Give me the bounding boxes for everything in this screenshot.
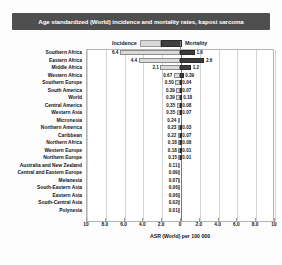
page-title: Age standardized (World) incidence and m… — [38, 18, 243, 25]
incidence-value-label: 0.35 — [166, 109, 175, 117]
x-axis-tick-label: 10 — [83, 222, 88, 227]
legend-label-mortality: Mortality — [185, 40, 207, 46]
bar-row: Caribbean0.220.07 — [0, 132, 282, 140]
category-label: Northern America — [0, 124, 84, 132]
incidence-value-label: 0.35 — [166, 102, 175, 110]
mortality-value-label: 0.04 — [182, 79, 191, 87]
bar-pair: 0.150.01 — [86, 154, 274, 162]
mortality-value-label: 0.01 — [182, 154, 191, 162]
x-axis-tick-mark — [255, 218, 256, 222]
incidence-value-label: 4.4 — [131, 57, 137, 65]
incidence-bar — [178, 200, 180, 205]
x-axis-tick-label: 0 — [179, 222, 182, 227]
category-label: Western Europe — [0, 147, 84, 155]
x-axis-tick-label: 8.0 — [252, 222, 259, 227]
x-axis-tick-mark — [142, 218, 143, 222]
category-label: Melanesia — [0, 177, 84, 185]
incidence-bar — [160, 65, 180, 70]
bar-row: World0.390.18 — [0, 94, 282, 102]
incidence-bar — [178, 170, 180, 175]
mortality-bar — [180, 65, 191, 70]
incidence-value-label: 0.18 — [168, 147, 177, 155]
incidence-value-label: 6.4 — [112, 49, 118, 57]
bar-rows: Southern Africa6.41.6Eastern Africa4.42.… — [0, 49, 282, 214]
bar-row: Southern Africa6.41.6 — [0, 49, 282, 57]
mortality-value-label: 1.2 — [193, 64, 199, 72]
legend-swatch-mortality — [161, 40, 182, 47]
mortality-value-label: 0.18 — [183, 94, 192, 102]
incidence-value-label: 0.23 — [167, 124, 176, 132]
bar-pair: 0.390.18 — [86, 94, 274, 102]
category-label: Central America — [0, 102, 84, 110]
incidence-value-label: 0.02 — [169, 199, 178, 207]
mortality-value-label: 2.6 — [206, 57, 212, 65]
bar-row: Western Asia0.350.07 — [0, 109, 282, 117]
incidence-value-label: 0.18 — [168, 139, 177, 147]
incidence-bar — [178, 185, 180, 190]
bar-pair: 6.41.6 — [86, 49, 274, 57]
chart-container: Age standardized (World) incidence and m… — [0, 0, 282, 265]
bar-pair: 0.01 — [86, 207, 274, 215]
bar-row: Eastern Asia0.06 — [0, 192, 282, 200]
x-axis-label: ASR (World) per 100 000 — [86, 233, 274, 239]
bar-row: Northern Europe0.150.01 — [0, 154, 282, 162]
mortality-value-label: 0.39 — [185, 72, 194, 80]
bar-row: Melanesia0.07 — [0, 177, 282, 185]
bar-pair: 0.07 — [86, 177, 274, 185]
x-axis-tick-mark — [105, 218, 106, 222]
bar-row: Northern Africa0.180.08 — [0, 139, 282, 147]
bar-row: South-Central Asia0.02 — [0, 199, 282, 207]
category-label: Southern Africa — [0, 49, 84, 57]
x-axis: 108.06.04.02.002.04.06.08.010 — [86, 222, 274, 232]
bar-pair: 0.350.08 — [86, 102, 274, 110]
incidence-value-label: 0.50 — [165, 79, 174, 87]
incidence-value-label: 0.15 — [168, 154, 177, 162]
x-axis-tick-label: 4.0 — [214, 222, 221, 227]
bar-row: Eastern Africa4.42.6 — [0, 57, 282, 65]
incidence-value-label: 0.39 — [166, 94, 175, 102]
incidence-value-label: 0.07 — [169, 177, 178, 185]
mortality-bar — [180, 58, 204, 63]
category-label: Southern Europe — [0, 79, 84, 87]
bar-row: Australia and New Zealand0.11 — [0, 162, 282, 170]
x-axis-tick-mark — [180, 218, 181, 222]
category-label: South America — [0, 87, 84, 95]
x-axis-tick-mark — [161, 218, 162, 222]
incidence-value-label: 2.1 — [152, 64, 158, 72]
chart-legend: Incidence Mortality — [112, 38, 207, 48]
chart-title-bar: Age standardized (World) incidence and m… — [12, 13, 270, 30]
bar-pair: 0.670.39 — [86, 72, 274, 80]
mortality-value-label: 0.08 — [182, 102, 191, 110]
mortality-value-label: 0.01 — [182, 147, 191, 155]
category-label: World — [0, 94, 84, 102]
incidence-bar — [178, 118, 180, 123]
category-label: Polynesia — [0, 207, 84, 215]
category-label: Micronesia — [0, 117, 84, 125]
bar-row: Polynesia0.01 — [0, 207, 282, 215]
x-axis-tick-mark — [274, 218, 275, 222]
incidence-bar — [139, 58, 180, 63]
bar-pair: 0.180.08 — [86, 139, 274, 147]
mortality-value-label: 1.6 — [197, 49, 203, 57]
bar-row: Middle Africa2.11.2 — [0, 64, 282, 72]
incidence-value-label: 0.11 — [169, 162, 178, 170]
bar-row: South-Eastern Asia0.06 — [0, 184, 282, 192]
x-axis-tick-mark — [124, 218, 125, 222]
category-label: Northern Europe — [0, 154, 84, 162]
bar-pair: 0.350.07 — [86, 109, 274, 117]
bar-row: Southern Europe0.500.04 — [0, 79, 282, 87]
category-label: South-Central Asia — [0, 199, 84, 207]
x-axis-tick-label: 2.0 — [158, 222, 165, 227]
bar-row: Central America0.350.08 — [0, 102, 282, 110]
bar-pair: 4.42.6 — [86, 57, 274, 65]
bar-row: Central and Eastern Europe0.09 — [0, 169, 282, 177]
incidence-value-label: 0.06 — [169, 184, 178, 192]
incidence-value-label: 0.22 — [167, 132, 176, 140]
incidence-value-label: 0.67 — [163, 72, 172, 80]
bar-pair: 0.02 — [86, 199, 274, 207]
incidence-value-label: 0.09 — [169, 169, 178, 177]
bar-row: Western Europe0.180.01 — [0, 147, 282, 155]
bar-pair: 0.180.01 — [86, 147, 274, 155]
mortality-value-label: 0.07 — [182, 87, 191, 95]
bar-pair: 0.220.07 — [86, 132, 274, 140]
